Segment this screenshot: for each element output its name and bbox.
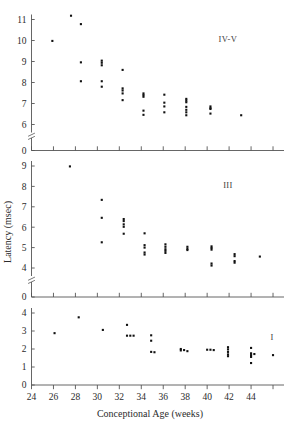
data-point <box>163 111 165 113</box>
y-tick-label-I-4: 4 <box>22 308 27 318</box>
latency-vs-age-figure: 678910110IV-V4567890III01234I24262830323… <box>0 0 288 435</box>
data-point <box>101 217 103 219</box>
data-point <box>210 249 212 251</box>
figure-container: 678910110IV-V4567890III01234I24262830323… <box>0 0 288 435</box>
data-point <box>150 334 152 336</box>
y-tick-label-IV-V-9: 9 <box>22 57 27 67</box>
data-point <box>209 108 211 110</box>
y-tick-label-IV-V-7: 7 <box>22 99 27 109</box>
data-point <box>250 356 252 358</box>
data-point <box>206 349 208 351</box>
data-point <box>150 351 152 353</box>
data-point <box>253 353 255 355</box>
data-point <box>101 199 103 201</box>
data-point <box>122 89 124 91</box>
data-point <box>185 109 187 111</box>
y-tick-label-I-0: 0 <box>22 380 27 390</box>
data-point <box>150 340 152 342</box>
data-point <box>209 349 211 351</box>
data-point <box>186 246 188 248</box>
data-point <box>126 335 128 337</box>
data-point <box>250 354 252 356</box>
x-tick-label-38: 38 <box>180 392 190 402</box>
data-point <box>213 349 215 351</box>
data-point <box>122 92 124 94</box>
y-tick-label-III-7: 7 <box>22 202 27 212</box>
data-point <box>142 110 144 112</box>
data-point <box>272 354 274 356</box>
data-point <box>123 223 125 225</box>
data-point <box>180 349 182 351</box>
x-tick-label-30: 30 <box>93 392 103 402</box>
x-tick-label-26: 26 <box>49 392 59 402</box>
data-point <box>123 233 125 235</box>
x-tick-label-28: 28 <box>71 392 81 402</box>
panel-label-I: I <box>270 332 273 342</box>
data-point <box>164 250 166 252</box>
data-point <box>227 353 229 355</box>
y-tick-label-IV-V-11: 11 <box>17 15 26 25</box>
data-point <box>259 256 261 258</box>
data-point <box>144 253 146 255</box>
panel-label-IV-V: IV-V <box>219 34 238 44</box>
data-point <box>123 218 125 220</box>
y-axis-title: Latency (msec) <box>2 201 14 263</box>
data-point <box>101 86 103 88</box>
data-point <box>164 243 166 245</box>
data-point <box>227 346 229 348</box>
panel-label-III: III <box>223 180 233 190</box>
y-tick-label-III-9: 9 <box>22 161 27 171</box>
data-point <box>123 220 125 222</box>
y-tick-label-III-baseline: 0 <box>22 292 27 302</box>
data-point <box>126 324 128 326</box>
data-point <box>122 87 124 89</box>
y-tick-label-III-8: 8 <box>22 182 27 192</box>
y-tick-label-III-6: 6 <box>22 223 27 233</box>
data-point <box>185 101 187 103</box>
x-tick-label-42: 42 <box>224 392 234 402</box>
x-axis-title: Conceptional Age (weeks) <box>97 408 203 420</box>
y-tick-label-III-4: 4 <box>22 263 27 273</box>
data-point <box>185 114 187 116</box>
data-point <box>142 96 144 98</box>
data-point <box>240 114 242 116</box>
data-point <box>144 251 146 253</box>
x-tick-label-32: 32 <box>115 392 125 402</box>
data-point <box>101 80 103 82</box>
data-point <box>250 362 252 364</box>
data-point <box>227 348 229 350</box>
data-point <box>101 241 103 243</box>
y-tick-label-IV-V-8: 8 <box>22 78 27 88</box>
data-point <box>122 99 124 101</box>
y-tick-label-III-5: 5 <box>22 243 27 253</box>
y-tick-label-I-2: 2 <box>22 344 27 354</box>
data-point <box>163 94 165 96</box>
data-point <box>250 352 252 354</box>
data-point <box>209 113 211 115</box>
data-point <box>54 332 56 334</box>
x-tick-label-40: 40 <box>202 392 212 402</box>
data-point <box>210 265 212 267</box>
data-point <box>70 15 72 17</box>
x-tick-label-44: 44 <box>246 392 256 402</box>
data-point <box>183 349 185 351</box>
y-tick-label-IV-V-10: 10 <box>17 36 27 46</box>
data-point <box>185 111 187 113</box>
data-point <box>164 252 166 254</box>
data-point <box>234 255 236 257</box>
data-point <box>122 69 124 71</box>
data-point <box>144 247 146 249</box>
data-point <box>102 329 104 331</box>
data-point <box>210 262 212 264</box>
data-point <box>142 114 144 116</box>
data-point <box>80 61 82 63</box>
data-point <box>101 60 103 62</box>
data-point <box>186 350 188 352</box>
y-tick-label-I-3: 3 <box>22 326 27 336</box>
data-point <box>123 226 125 228</box>
y-tick-label-I-1: 1 <box>22 362 27 372</box>
data-point <box>80 80 82 82</box>
data-point <box>164 246 166 248</box>
data-point <box>144 244 146 246</box>
data-point <box>51 40 53 42</box>
